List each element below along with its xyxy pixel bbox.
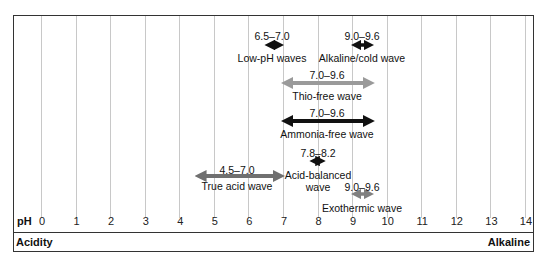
thio-free-range: 7.0–9.6	[309, 69, 344, 81]
ammonia-free-name: Ammonia-free wave	[280, 128, 373, 140]
acid-balanced-name-1: Acid-balanced	[285, 169, 352, 181]
acid-balanced-range: 7.8–8.2	[300, 147, 335, 159]
ammonia-free-range: 7.0–9.6	[309, 107, 344, 119]
acid-balanced-name-2: wave	[306, 181, 331, 193]
low-ph-range: 6.5–7.0	[254, 30, 289, 42]
exothermic-name: Exothermic wave	[322, 202, 402, 214]
thio-free-name: Thio-free wave	[292, 90, 361, 102]
true-acid-name: True acid wave	[202, 180, 273, 192]
exothermic-range: 9.0–9.6	[344, 181, 379, 193]
true-acid-range: 4.5–7.0	[219, 164, 254, 176]
alkaline-cold-range: 9.0–9.6	[344, 30, 379, 42]
alkaline-cold-name: Alkaline/cold wave	[319, 52, 405, 64]
low-ph-name: Low-pH waves	[238, 52, 307, 64]
